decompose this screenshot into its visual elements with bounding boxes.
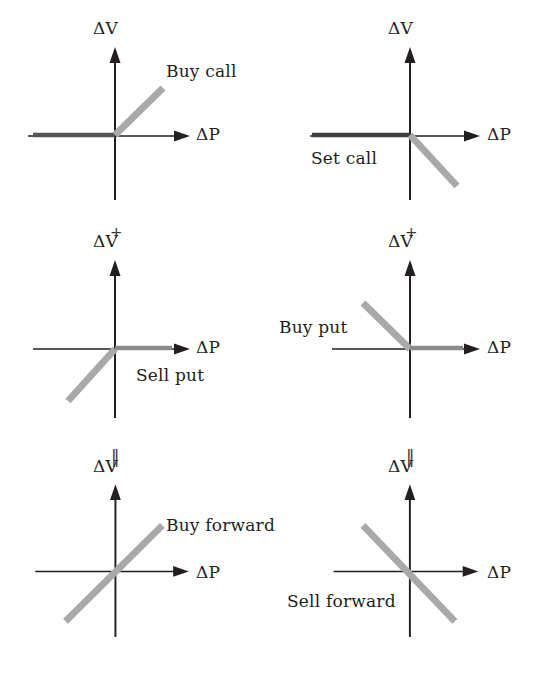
h-axis-arrowhead	[464, 344, 480, 355]
panel-buy-put: ΔV ΔP Buy put	[270, 225, 540, 450]
panel-sell-put: ΔV ΔP Sell put	[0, 225, 270, 450]
h-axis-label: ΔP	[487, 564, 511, 581]
payoff-sloped-segment	[363, 303, 410, 349]
panel-sell-forward: ΔV ΔP Sell forward	[270, 455, 540, 680]
v-axis-label: ΔV	[93, 20, 118, 37]
v-axis-arrowhead	[405, 260, 416, 276]
payoff-sloped-segment	[115, 88, 163, 135]
h-axis-arrowhead	[173, 566, 189, 577]
panel-set-call: ΔV ΔP Set call	[270, 0, 540, 225]
payoff-sloped-segment	[410, 135, 457, 186]
v-axis-label: ΔV	[388, 20, 413, 37]
v-axis-arrowhead	[405, 484, 416, 500]
h-axis-arrowhead	[464, 131, 480, 142]
payoff-line	[66, 525, 163, 621]
v-axis-label: ΔV	[388, 458, 413, 475]
v-axis-label: ΔV	[93, 233, 118, 250]
payoff-sloped-segment	[68, 349, 115, 401]
series-label-set-call: Set call	[311, 150, 377, 167]
buy-forward-plot	[0, 455, 270, 680]
sell-put-plot	[0, 225, 270, 450]
h-axis-label: ΔP	[196, 564, 220, 581]
v-axis-arrowhead	[405, 47, 416, 63]
v-axis-label: ΔV	[93, 458, 118, 475]
h-axis-arrowhead	[463, 566, 479, 577]
h-axis-arrowhead	[174, 344, 190, 355]
h-axis-label: ΔP	[487, 126, 511, 143]
v-axis-arrowhead	[110, 260, 121, 276]
series-label-sell-put: Sell put	[136, 367, 204, 384]
panel-buy-forward: ΔV ΔP Buy forward	[0, 455, 270, 680]
v-axis-label: ΔV	[388, 233, 413, 250]
v-axis-arrowhead	[110, 47, 121, 63]
series-label-buy-call: Buy call	[166, 63, 237, 80]
panel-buy-call: ΔV ΔP Buy call	[0, 0, 270, 225]
h-axis-arrowhead	[174, 131, 190, 142]
h-axis-label: ΔP	[487, 339, 511, 356]
series-label-buy-forward: Buy forward	[166, 517, 275, 534]
v-axis-arrowhead	[110, 484, 121, 500]
buy-call-plot	[0, 0, 270, 225]
series-label-buy-put: Buy put	[279, 319, 348, 336]
h-axis-label: ΔP	[196, 126, 220, 143]
payoff-diagram-figure: ΔV ΔP Buy call ΔV ΔP Set call + +	[0, 0, 541, 685]
series-label-sell-forward: Sell forward	[287, 593, 396, 610]
h-axis-label: ΔP	[196, 339, 220, 356]
